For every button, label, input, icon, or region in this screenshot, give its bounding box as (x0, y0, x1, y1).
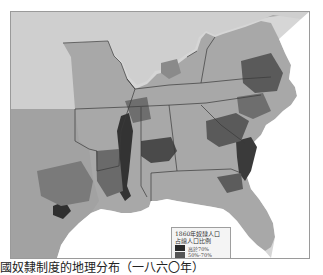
figure-caption: 國奴隸制度的地理分布（一八六〇年） (0, 258, 204, 275)
legend-title-line2: 占總人口比例 (175, 237, 227, 244)
legend-item-high: 高於70% (175, 245, 227, 251)
slavery-map (11, 12, 309, 258)
legend-title-line1: 1860年奴隸人口 (175, 230, 227, 237)
legend-label-high: 高於70% (188, 245, 209, 252)
legend-swatch-high (175, 245, 185, 251)
map-frame: 1860年奴隸人口 占總人口比例 高於70% 50%-70% 30%-50% 低… (10, 11, 310, 259)
map-legend: 1860年奴隸人口 占總人口比例 高於70% 50%-70% 30%-50% 低… (171, 227, 231, 259)
